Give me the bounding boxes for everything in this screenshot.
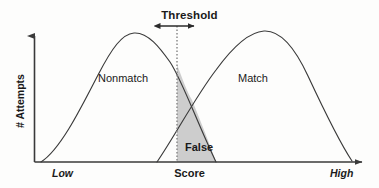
- match-curve-label: Match: [238, 72, 268, 84]
- threshold-label: Threshold: [0, 9, 379, 21]
- x-axis-max-label: High: [330, 167, 353, 179]
- nonmatch-curve-label: Nonmatch: [98, 72, 148, 84]
- threshold-distribution-figure: Threshold # Attempts Nonmatch Match Fals…: [0, 0, 379, 188]
- figure-canvas: [0, 0, 379, 188]
- x-axis-min-label: Low: [52, 167, 73, 179]
- y-axis-label: # Attempts: [14, 61, 26, 141]
- false-region-label: False: [185, 141, 213, 153]
